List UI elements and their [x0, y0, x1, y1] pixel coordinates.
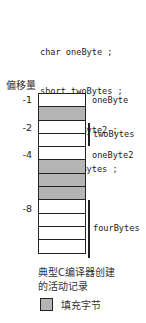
padding-row: [39, 160, 85, 173]
byte-row: [39, 94, 85, 107]
code-line: char oneByte ;: [40, 46, 123, 59]
padding-row: [39, 107, 85, 120]
caption-line: 典型C编译器创建: [38, 266, 115, 280]
bracket-fourbytes: [88, 200, 90, 258]
byte-row: [39, 134, 85, 147]
byte-row: [39, 200, 85, 213]
byte-row: [39, 240, 85, 253]
offset-label: -4: [2, 149, 32, 160]
byte-row: [39, 121, 85, 134]
offset-label: -8: [2, 203, 32, 214]
activation-record: [38, 93, 86, 254]
legend: 填充字节: [40, 297, 101, 312]
padding-row: [39, 174, 85, 187]
offset-label: -2: [2, 122, 32, 133]
legend-label: 填充字节: [61, 297, 101, 312]
caption-line: 的活动记录: [38, 280, 115, 294]
bracket-twobytes: [88, 123, 90, 146]
caption: 典型C编译器创建 的活动记录: [38, 266, 115, 294]
label-onebyte2: oneByte2: [92, 150, 133, 160]
padding-swatch: [40, 298, 53, 311]
byte-row: [39, 147, 85, 160]
label-twobytes: twoBytes: [93, 129, 134, 139]
byte-row: [39, 214, 85, 227]
padding-row: [39, 187, 85, 200]
offset-label: -1: [2, 94, 32, 105]
label-fourbytes: fourBytes: [93, 223, 140, 233]
axis-title: 偏移量: [6, 77, 36, 92]
byte-row: [39, 227, 85, 240]
label-onebyte: oneByte: [92, 95, 128, 105]
